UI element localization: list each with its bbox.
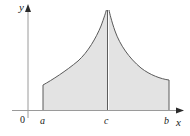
y-axis-label: y bbox=[19, 2, 24, 13]
shaded-area-right bbox=[109, 10, 169, 110]
tick-label-c: c bbox=[104, 116, 108, 126]
figure-canvas: y x 0 a c b bbox=[0, 0, 190, 136]
figure-graphic bbox=[0, 0, 190, 136]
tick-label-a: a bbox=[40, 116, 45, 126]
shaded-area-left bbox=[43, 10, 106, 110]
x-axis-label: x bbox=[176, 117, 181, 128]
tick-label-b: b bbox=[164, 116, 169, 126]
x-axis-arrowhead bbox=[176, 108, 184, 114]
y-axis-arrowhead bbox=[25, 4, 31, 12]
origin-label: 0 bbox=[20, 115, 25, 125]
